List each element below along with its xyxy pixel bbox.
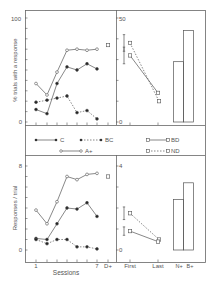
- bar-label-b: B+: [187, 263, 194, 269]
- data-point: [76, 178, 79, 181]
- data-point: [86, 201, 89, 204]
- xtick-session-1: 1: [34, 263, 38, 269]
- bar-b-plus: [184, 183, 194, 250]
- svg-text:A+: A+: [85, 148, 93, 154]
- data-point: [86, 245, 89, 248]
- data-point: [46, 238, 49, 241]
- legend-entry-bd: BD: [147, 137, 181, 143]
- ytick-top-right-min: 0: [119, 119, 123, 125]
- ytick-top-right-max: 50: [119, 16, 126, 22]
- ytick-bottom-left-max: 8: [19, 163, 23, 169]
- data-point: [46, 222, 49, 225]
- d-plus-point: [106, 175, 109, 178]
- series-bc: [36, 96, 97, 119]
- data-point: [156, 240, 159, 243]
- data-point: [128, 229, 131, 232]
- svg-text:ND: ND: [171, 148, 180, 154]
- data-point: [96, 248, 99, 251]
- data-point: [56, 222, 59, 225]
- data-point: [96, 48, 99, 51]
- data-point: [76, 245, 79, 248]
- data-point: [66, 238, 69, 241]
- data-point: [46, 94, 49, 97]
- data-point: [56, 82, 59, 85]
- series-c: [36, 64, 97, 114]
- data-point: [35, 101, 38, 104]
- data-point: [76, 208, 79, 211]
- xtick-last: Last: [152, 263, 164, 269]
- data-point: [86, 62, 89, 65]
- legend-entry-bc: BC: [80, 137, 114, 143]
- svg-text:BD: BD: [171, 137, 180, 143]
- data-point: [56, 200, 59, 203]
- data-point: [157, 100, 160, 103]
- data-point: [128, 54, 131, 57]
- data-point: [35, 108, 38, 111]
- data-point: [35, 209, 38, 212]
- legend-entry-a: A+: [60, 148, 93, 154]
- data-point: [66, 65, 69, 68]
- legend: C BC A+ BD ND: [35, 137, 181, 154]
- data-point: [96, 215, 99, 218]
- bar-label-n: N+: [175, 263, 182, 269]
- d-plus-point: [106, 43, 109, 46]
- data-point: [96, 172, 99, 175]
- data-point: [35, 238, 38, 241]
- data-point: [96, 68, 99, 71]
- bottom-left-xlabel: Sessions: [53, 269, 80, 276]
- series-bd: [130, 55, 158, 92]
- data-point: [66, 95, 69, 98]
- data-point: [76, 48, 79, 51]
- ytick-bottom-right-min: 0: [119, 247, 123, 253]
- bar-b-plus: [184, 30, 194, 122]
- data-point: [86, 49, 89, 52]
- bottom-left-ylabel: Responses / trial: [12, 186, 18, 231]
- data-point: [46, 99, 49, 102]
- bar-n-plus: [174, 200, 184, 250]
- data-point: [86, 173, 89, 176]
- data-point: [46, 112, 49, 115]
- series-a-plus: [36, 173, 97, 223]
- svg-text:BC: BC: [105, 137, 114, 143]
- data-point: [86, 109, 89, 112]
- legend-entry-c: C: [35, 137, 65, 143]
- data-point: [56, 97, 59, 100]
- series-nd: [130, 213, 159, 239]
- ytick-bottom-right-max: 4: [119, 163, 123, 169]
- data-point: [46, 242, 49, 245]
- data-point: [156, 91, 159, 94]
- ytick-top-left-max: 100: [11, 16, 22, 22]
- data-point: [76, 69, 79, 72]
- ytick-top-left-min: 0: [19, 119, 23, 125]
- data-point: [76, 111, 79, 114]
- data-point: [66, 49, 69, 52]
- data-point: [128, 41, 131, 44]
- ytick-bottom-left-min: 0: [19, 247, 23, 253]
- bar-n-plus: [174, 62, 184, 122]
- xtick-session-7: 7: [95, 263, 99, 269]
- data-point: [35, 82, 38, 85]
- data-point: [128, 212, 131, 215]
- series-nd: [130, 43, 159, 101]
- data-point: [66, 175, 69, 178]
- data-point: [96, 117, 99, 120]
- xtick-first: First: [124, 263, 136, 269]
- series-bd: [130, 231, 158, 242]
- top-left-ylabel: % trials with a response: [12, 38, 18, 102]
- svg-text:C: C: [60, 137, 65, 143]
- series-a-plus: [36, 49, 97, 95]
- legend-entry-nd: ND: [147, 148, 181, 154]
- xtick-d-plus: D+: [104, 263, 112, 269]
- data-point: [66, 207, 69, 210]
- data-point: [56, 71, 59, 74]
- data-point: [56, 238, 59, 241]
- figure: 100 0 50 0 8 0 4 0 % trials with a respo…: [0, 0, 214, 281]
